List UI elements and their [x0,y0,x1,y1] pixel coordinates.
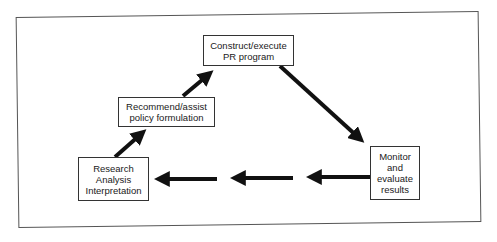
arrow-research-to-recommend [115,134,141,157]
node-label-line: PR program [223,51,274,62]
node-label-line: and [387,162,403,173]
node-label-line: Research [93,163,134,174]
node-recommend-assist-policy: Recommend/assist policy formulation [118,97,215,127]
node-label-line: evaluate [377,173,413,184]
node-label-line: Construct/execute [210,40,287,51]
arrow-construct-to-monitor [280,66,359,138]
node-research-analysis-interpretation: Research Analysis Interpretation [78,157,149,201]
node-construct-execute-pr-program: Construct/execute PR program [203,35,294,66]
node-label-line: Recommend/assist [126,101,207,112]
node-label-line: Monitor [379,151,411,162]
node-monitor-evaluate-results: Monitor and evaluate results [370,146,420,200]
node-label-line: Analysis [96,174,131,185]
node-label-line: Interpretation [86,185,142,196]
node-label-line: results [381,184,409,195]
node-label-line: policy formulation [130,112,204,123]
arrow-recommend-to-construct [183,75,208,96]
